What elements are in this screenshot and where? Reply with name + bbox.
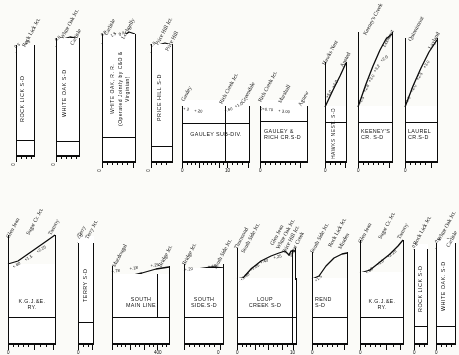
scale-label: 0: [181, 168, 184, 173]
scale-label: 0: [435, 350, 438, 355]
panel-price-hill-sd: PRICE HILL S-D Price Hill Jct. Price Hil…: [143, 0, 181, 175]
datum-rule: [358, 122, 393, 123]
station-label: Keeney's Creek: [362, 2, 384, 36]
scale-label: 0: [77, 350, 80, 355]
panel-gauley-sub-div: GAULEY SUB-DIV. Gauley Rich Creek Jct. G…: [180, 0, 258, 175]
datum-rule: [182, 123, 250, 124]
grade-label: +.2: [183, 106, 189, 112]
station-label: Ansted: [339, 51, 352, 68]
panel-gauley-rich-cr-sd: GAULEY & RICH CR.S-D Rich Creek Jct. Mar…: [258, 0, 320, 175]
scale-label: 0: [146, 169, 151, 172]
panel-title: K.G.J.&E. RY.: [361, 298, 403, 311]
panel-title: HAWKS NEST. S-D: [330, 107, 342, 159]
panel-white-oak-sd-top: WHITE OAK S-D White Oak Jct. Carlisle 0.…: [44, 0, 84, 175]
datum-rule: [436, 326, 456, 327]
right-edge: [169, 266, 170, 280]
panel-title: WHITE OAK, R. R. (Operated Jointly by C&…: [109, 44, 129, 134]
profile-box: [112, 274, 170, 344]
panel-rock-lick-sd-top: ROCK LICK S-D Rock Lick Jct. 0.5 .25 0: [0, 0, 40, 175]
panel-title: WHITE OAK S-D: [61, 48, 75, 138]
datum-rule: [56, 141, 80, 142]
panel-title: PRICE HILL S-D: [156, 56, 170, 140]
datum-rule: [8, 317, 56, 318]
panel-rend-sd: REND S-D South Side Jct. Rock Lick Jct. …: [308, 178, 356, 353]
datum-rule: [184, 317, 224, 318]
scale-label: 0: [357, 168, 360, 173]
datum-rule: [102, 137, 136, 138]
division-rule: [292, 250, 293, 344]
datum-rule: [151, 146, 173, 147]
panel-south-side-sd: SOUTH SIDE.S-D Bridge Jct. South Side Jc…: [180, 178, 232, 353]
panel-white-oak-sd-bottom: WHITE OAK. S-D White Oak Jct. Carlisle 0…: [434, 178, 459, 353]
panel-white-oak-rr: WHITE OAK, R. R. (Operated Jointly by C&…: [92, 0, 140, 175]
station-label: Carlisle: [445, 230, 458, 248]
right-edge: [437, 38, 438, 108]
panel-terry-sd: TERRY S-D Terry Terry Jct. 1.0 0: [68, 178, 104, 353]
panel-kgj-e-ry-right: K.G.J.&E. RY. Glen Jean Sugar Cr. Jct. T…: [356, 178, 414, 353]
right-edge: [346, 62, 347, 108]
panel-title: SOUTH SIDE.S-D: [185, 296, 223, 309]
panel-title: LAUREL CR.S-D: [406, 128, 440, 141]
scale-label: 0: [413, 350, 416, 355]
panel-title: REND S-D: [313, 296, 349, 309]
scale-label: 400: [154, 350, 162, 355]
left-edge: [312, 252, 313, 280]
station-label: Sugar Cr. Jct.: [25, 207, 44, 236]
panel-title: ROCK LICK S-D: [19, 60, 33, 138]
datum-rule: [16, 140, 35, 141]
scale-label: 0: [51, 163, 56, 166]
panel-title: ROCK LICK S-D: [417, 256, 426, 322]
scale-label: 0: [97, 169, 102, 172]
panel-title: K.G.J.&E. RY.: [9, 298, 55, 311]
datum-rule: [112, 317, 170, 318]
left-edge: [8, 235, 9, 265]
scale-label: 0: [7, 350, 10, 355]
datum-rule: [405, 122, 438, 123]
right-edge: [347, 252, 348, 280]
panel-keeneys-cr-sd: KEENEY'S CR. S-D Keeney's Creek Lookout …: [355, 0, 403, 175]
profile-box: [312, 278, 348, 344]
station-label: Tamroy: [396, 222, 409, 240]
panel-south-main-line: SOUTH MAIN LINE Macdougal Bridge Jct. +.…: [106, 178, 178, 353]
panel-title: WHITE OAK. S-D: [440, 250, 452, 322]
scale-label: 0: [259, 168, 262, 173]
panel-title: GAULEY SUB-DIV.: [184, 131, 248, 137]
panel-kgj-e-ry-left: K.G.J.&E. RY. Glen Jean Sugar Cr. Jct. T…: [0, 178, 66, 353]
scale-label: 0: [359, 350, 362, 355]
datum-rule: [414, 326, 428, 327]
datum-rule: [360, 317, 404, 318]
left-edge: [237, 248, 238, 280]
datum-rule: [312, 317, 348, 318]
panel-title: GAULEY & RICH CR.S-D: [262, 128, 308, 141]
right-edge: [223, 264, 224, 272]
panel-hawks-nest-sd: HAWKS NEST. S-D Hawks Nest Ansted +5.0 +…: [322, 0, 356, 175]
panel-rock-lick-sd-bottom: ROCK LICK S-D Rock Lick Jct. 0.5 0: [412, 178, 436, 353]
grade-label: +.18: [207, 263, 216, 269]
scale-label: 0: [311, 350, 314, 355]
right-edge: [392, 32, 393, 108]
right-edge: [55, 235, 56, 265]
grade-label: + 3.00: [278, 108, 290, 114]
panel-title: LOUP CREEK S-D: [238, 296, 292, 309]
right-edge: [295, 248, 296, 280]
scale-label: 10: [290, 350, 295, 355]
scale-label: 0: [324, 168, 327, 173]
scale-label: 0: [11, 163, 16, 166]
panel-title: TERRY S-D: [82, 252, 92, 318]
grade-line: [8, 235, 56, 265]
scale-label: 0: [236, 350, 239, 355]
scale-label: 0: [217, 350, 220, 355]
panel-title: SOUTH MAIN LINE: [113, 296, 169, 309]
station-label: Sugar Cr. Jct.: [377, 211, 396, 240]
panel-laurel-cr-sd: LAUREL CR.S-D Quinnimont Layland +1.0 +2…: [402, 0, 450, 175]
grade-label: +.20: [194, 108, 203, 114]
right-edge: [403, 240, 404, 274]
grade-label: 0+0.70: [260, 106, 273, 112]
scale-label: 10: [225, 168, 230, 173]
left-edge: [360, 240, 361, 274]
scale-label: 0: [404, 168, 407, 173]
datum-rule: [78, 322, 94, 323]
datum-rule: [237, 317, 297, 318]
panel-loup-creek-sd: LOUP CREEK S-D Thurmond South Side Jct. …: [232, 178, 308, 353]
